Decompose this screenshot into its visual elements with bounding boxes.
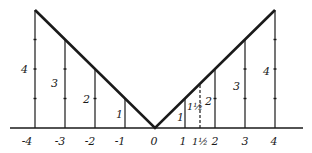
unit-tick-marks (34, 40, 277, 99)
tick-label: -4 (22, 135, 33, 148)
tick-label: 2 (211, 135, 219, 148)
height-label: 3 (51, 77, 58, 90)
segment-labels: 4 3 2 1 1 1½ 2 3 4 (20, 63, 270, 124)
height-label: 2 (204, 95, 212, 108)
tick-label: 3 (242, 135, 249, 148)
tick-label: -2 (85, 135, 96, 148)
tick-label: 0 (151, 135, 158, 148)
tick-label: 4 (270, 135, 278, 148)
abs-function-line (35, 10, 275, 128)
abs-value-graph: 4 3 2 1 1 1½ 2 3 4 -4 -3 -2 -1 0 1 1½ 2 … (0, 0, 312, 153)
x-axis-labels: -4 -3 -2 -1 0 1 1½ 2 3 4 (22, 135, 278, 148)
tick-label: 1½ (192, 136, 208, 147)
tick-label: 1 (180, 135, 187, 148)
height-label: 4 (262, 65, 270, 78)
vertical-segments (35, 10, 275, 128)
height-label: 4 (20, 63, 28, 76)
height-label: 1 (116, 108, 123, 121)
tick-label: -3 (55, 135, 66, 148)
tick-label: -1 (115, 135, 126, 148)
height-label: 2 (82, 93, 90, 106)
height-label: 1½ (187, 101, 203, 112)
height-label: 1 (177, 111, 184, 124)
height-label: 3 (233, 80, 240, 93)
